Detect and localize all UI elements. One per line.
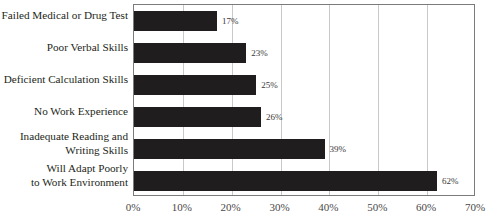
bar-row: 23% (134, 37, 474, 69)
bar-no-work-experience[interactable] (134, 107, 261, 127)
category-axis-labels: Failed Medical or Drug Test Poor Verbal … (0, 4, 128, 196)
bar-value-label: 62% (437, 171, 459, 191)
bar-row: 25% (134, 69, 474, 101)
x-tick-label: 0% (126, 200, 141, 214)
bar-row: 39% (134, 133, 474, 165)
x-tick-label: 30% (269, 200, 289, 214)
category-label: No Work Experience (0, 105, 128, 119)
bar-value-label: 39% (325, 139, 347, 159)
x-tick-label: 50% (367, 200, 387, 214)
x-tick-label: 40% (318, 200, 338, 214)
category-label: Deficient Calculation Skills (0, 73, 128, 87)
x-tick-label: 10% (172, 200, 192, 214)
bar-value-label: 25% (256, 75, 278, 95)
bar-poor-verbal-skills[interactable] (134, 43, 246, 63)
bar-value-label: 23% (246, 43, 268, 63)
bar-will-adapt-poorly-to-work-environment[interactable] (134, 171, 437, 191)
category-label: Failed Medical or Drug Test (0, 9, 128, 23)
bar-row: 17% (134, 5, 474, 37)
x-tick-label: 70% (465, 200, 485, 214)
category-label: Inadequate Reading and Writing Skills (0, 130, 128, 157)
category-label: Will Adapt Poorly to Work Environment (0, 162, 128, 189)
bar-value-label: 17% (217, 11, 239, 31)
x-tick-label: 60% (416, 200, 436, 214)
plot-area: 17% 23% 25% 26% 39% 62% (133, 4, 475, 196)
bar-row: 62% (134, 165, 474, 197)
bar-inadequate-reading-and-writing-skills[interactable] (134, 139, 325, 159)
x-axis-labels: 0% 10% 20% 30% 40% 50% 60% 70% (0, 198, 488, 220)
bar-chart: Failed Medical or Drug Test Poor Verbal … (0, 0, 488, 224)
x-tick-label: 20% (221, 200, 241, 214)
bar-failed-medical-or-drug-test[interactable] (134, 11, 217, 31)
category-label: Poor Verbal Skills (0, 41, 128, 55)
bar-value-label: 26% (261, 107, 283, 127)
bar-deficient-calculation-skills[interactable] (134, 75, 256, 95)
bar-row: 26% (134, 101, 474, 133)
